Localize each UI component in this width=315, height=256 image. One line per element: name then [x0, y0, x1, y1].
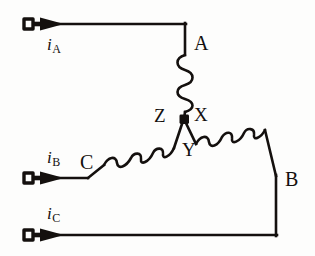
junction-node-marker	[180, 115, 190, 125]
terminal-label-a: A	[194, 33, 208, 53]
terminal-c	[24, 229, 64, 242]
current-label-b: iB	[47, 149, 60, 166]
phase-c-branch	[46, 121, 183, 178]
current-arrow-c-icon	[40, 229, 64, 242]
current-label-c: iC	[47, 205, 60, 222]
winding-label-y: Y	[182, 140, 196, 159]
coil-y-b	[196, 129, 265, 146]
terminal-b	[24, 172, 64, 185]
terminal-label-b: B	[285, 169, 298, 189]
wire-b-corner-lead	[265, 130, 276, 176]
coil-a-x	[178, 55, 193, 112]
terminal-a	[24, 18, 64, 31]
current-arrow-a-icon	[40, 18, 64, 31]
current-label-a: iA	[47, 36, 60, 53]
coil-c-z	[104, 148, 174, 167]
terminal-b-ring	[24, 173, 33, 183]
circuit-figure: iA iB iC A B C X Y Z	[0, 0, 315, 256]
winding-label-z: Z	[154, 106, 166, 125]
terminal-a-ring	[24, 19, 33, 29]
current-subscript-c: C	[52, 211, 60, 225]
current-subscript-a: A	[52, 42, 61, 56]
terminal-label-c: C	[80, 152, 93, 172]
current-arrow-b-icon	[40, 172, 64, 185]
current-subscript-b: B	[52, 155, 60, 169]
phase-a-branch	[46, 23, 193, 119]
winding-label-x: X	[194, 105, 208, 124]
terminal-c-ring	[24, 230, 33, 240]
